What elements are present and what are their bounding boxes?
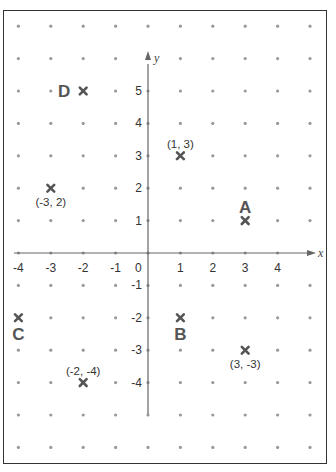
grid-dot (49, 219, 52, 222)
grid-dot (49, 25, 52, 28)
grid-dot (82, 413, 85, 416)
grid-dot (211, 57, 214, 60)
grid-dot (49, 316, 52, 319)
grid-dot (211, 446, 214, 449)
grid-dot (17, 187, 20, 190)
x-tick-label: -3 (45, 261, 56, 275)
point-letter-label: A (239, 198, 251, 217)
grid-dot (211, 122, 214, 125)
grid-dot (308, 187, 311, 190)
grid-dot (308, 413, 311, 416)
grid-dot (114, 122, 117, 125)
grid-dot (179, 89, 182, 92)
grid-dot (49, 413, 52, 416)
x-tick-label: 1 (177, 261, 184, 275)
grid-dot (244, 154, 247, 157)
point-d: D (58, 82, 87, 101)
grid-dot (308, 381, 311, 384)
grid-dot (211, 154, 214, 157)
grid-dot (114, 284, 117, 287)
grid-dot (179, 349, 182, 352)
grid-dot (114, 413, 117, 416)
grid-dot (114, 446, 117, 449)
grid-dot (244, 89, 247, 92)
grid-dot (276, 122, 279, 125)
axes: x y 0 (14, 51, 324, 414)
grid-dot (17, 25, 20, 28)
point-letter-label: C (12, 325, 24, 344)
grid-dot (49, 381, 52, 384)
grid-dot (308, 446, 311, 449)
grid-dot (244, 122, 247, 125)
point-c: C (12, 314, 24, 343)
grid-dot (179, 284, 182, 287)
tick-labels: -4-3-2-1123454321-1-2-3-4 (13, 84, 281, 390)
grid-dot (244, 446, 247, 449)
grid-dot (114, 381, 117, 384)
y-axis-arrow-icon (145, 51, 151, 60)
x-tick-label: 2 (209, 261, 216, 275)
grid-dot (146, 25, 149, 28)
x-tick-label: -4 (13, 261, 24, 275)
grid-dot (276, 413, 279, 416)
grid-dot (146, 446, 149, 449)
point-coordinate-label: (-2, -4) (66, 365, 101, 377)
grid-dot (308, 122, 311, 125)
grid-dot (244, 381, 247, 384)
point-1-3: (1, 3) (167, 138, 194, 159)
grid-dot (82, 349, 85, 352)
grid-dot (179, 381, 182, 384)
grid-dot (276, 57, 279, 60)
grid-dot (17, 219, 20, 222)
grid-dot (276, 89, 279, 92)
point-3-m3: (3, -3) (230, 347, 261, 370)
grid-dot (82, 122, 85, 125)
y-tick-label: 4 (135, 116, 142, 130)
point-coordinate-label: (3, -3) (230, 358, 261, 370)
point-letter-label: D (58, 82, 70, 101)
grid-dot (308, 349, 311, 352)
grid-dot (211, 381, 214, 384)
grid-dot (82, 446, 85, 449)
y-tick-label: 5 (135, 84, 142, 98)
grid-dot (179, 446, 182, 449)
grid-dot (82, 57, 85, 60)
y-axis-label: y (153, 51, 160, 65)
grid-dot (17, 284, 20, 287)
grid-dot (308, 25, 311, 28)
grid-dot (211, 349, 214, 352)
grid-dot (179, 219, 182, 222)
grid-dot (17, 154, 20, 157)
grid-dot (211, 413, 214, 416)
grid-dot (49, 154, 52, 157)
grid-dot (179, 57, 182, 60)
grid-dot (308, 154, 311, 157)
grid-dot (17, 413, 20, 416)
grid-dot (276, 25, 279, 28)
point-letter-label: B (174, 325, 186, 344)
coordinate-plane: x y 0 -4-3-2-1123454321-1-2-3-4 (1, 3)AD… (0, 0, 336, 472)
grid-dot (114, 57, 117, 60)
grid-dot (82, 284, 85, 287)
grid-dot (17, 122, 20, 125)
grid-dot (82, 154, 85, 157)
grid-dot (308, 57, 311, 60)
grid-dot (308, 219, 311, 222)
y-tick-label: 3 (135, 149, 142, 163)
grid-dot (49, 89, 52, 92)
grid-dot (17, 89, 20, 92)
grid-dot (276, 381, 279, 384)
grid-dot (82, 187, 85, 190)
grid-dot (49, 284, 52, 287)
grid-dot (211, 219, 214, 222)
grid-dot (82, 25, 85, 28)
grid-dot (114, 89, 117, 92)
grid-dot (211, 89, 214, 92)
grid-dot (114, 187, 117, 190)
grid-dot (276, 219, 279, 222)
y-tick-label: -4 (131, 376, 142, 390)
y-tick-label: -3 (131, 343, 142, 357)
grid-dot (211, 284, 214, 287)
grid-dot (179, 122, 182, 125)
grid-dot (17, 381, 20, 384)
